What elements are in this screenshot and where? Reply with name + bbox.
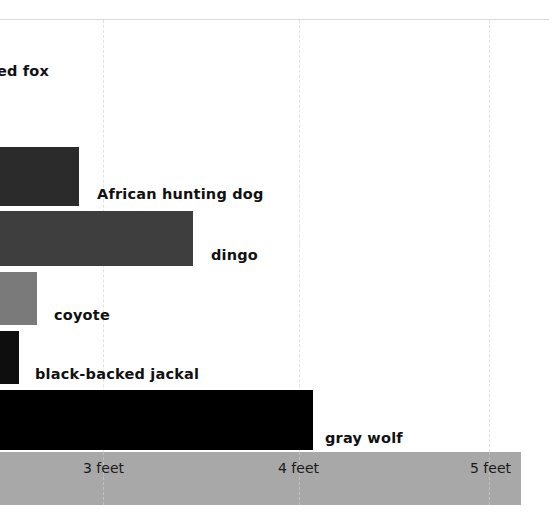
plot-area: ed foxAfrican hunting dogdingocoyoteblac… — [0, 20, 558, 452]
bar-chart: ed foxAfrican hunting dogdingocoyoteblac… — [0, 0, 558, 521]
x-tick-label: 4 feet — [278, 461, 319, 475]
x-axis-band: 3 feet4 feet5 feet — [0, 452, 521, 505]
bar-label: coyote — [54, 308, 110, 323]
gridline-2 — [299, 20, 300, 452]
x-tick-label: 5 feet — [470, 461, 511, 475]
x-tick-label: 3 feet — [83, 461, 124, 475]
bar-label: black-backed jackal — [35, 367, 199, 382]
bar[interactable] — [0, 331, 19, 384]
bar[interactable] — [0, 211, 193, 266]
bar[interactable] — [0, 390, 313, 450]
bar-label: ed fox — [0, 64, 49, 79]
bar[interactable] — [0, 147, 79, 206]
bar-label: dingo — [211, 248, 258, 263]
bar-label: gray wolf — [325, 431, 403, 446]
bar-label: African hunting dog — [97, 187, 264, 202]
gridline-3 — [489, 20, 490, 452]
bar[interactable] — [0, 272, 37, 325]
